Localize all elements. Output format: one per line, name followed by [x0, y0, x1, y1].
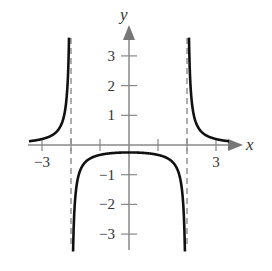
function-curve — [189, 38, 229, 142]
x-tick-label: −3 — [34, 154, 50, 170]
x-axis-label: x — [245, 135, 254, 154]
axes — [28, 28, 240, 250]
y-tick-label: 1 — [108, 107, 116, 123]
y-tick-label: 3 — [108, 48, 116, 64]
y-tick-label: −1 — [99, 167, 115, 183]
y-tick-label: −2 — [99, 196, 115, 212]
function-curve — [29, 38, 69, 142]
y-tick-label: 2 — [108, 78, 116, 94]
function-graph: −33321−1−2−3 x y — [0, 0, 272, 271]
y-tick-label: −3 — [99, 226, 115, 242]
y-axis-label: y — [118, 5, 128, 24]
x-tick-label: 3 — [212, 154, 220, 170]
